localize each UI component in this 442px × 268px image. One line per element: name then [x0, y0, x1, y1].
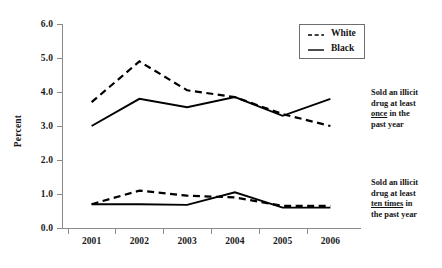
legend-entry-white: White — [304, 28, 362, 42]
series-line — [92, 61, 331, 126]
legend-entry-black: Black — [304, 43, 362, 57]
legend-label-white: White — [331, 28, 356, 38]
y-tick-label: 4.0 — [25, 87, 53, 97]
annotation-emphasis: ten times — [371, 199, 403, 208]
y-tick-label: 0.0 — [25, 223, 53, 233]
y-axis-title: Percent — [13, 115, 23, 147]
annotation-line: drug at least — [371, 99, 433, 110]
x-tick-mark — [163, 229, 164, 234]
x-tick-mark — [259, 229, 260, 234]
annotation-emphasis: once — [371, 109, 387, 118]
y-tick-label: 2.0 — [25, 155, 53, 165]
x-tick-label: 2004 — [213, 236, 257, 246]
chart-figure: Percent 0.01.02.03.04.05.06.0 2001200220… — [0, 0, 442, 268]
x-tick-label: 2006 — [308, 236, 352, 246]
x-tick-mark — [115, 229, 116, 234]
y-tick-mark — [57, 228, 62, 229]
x-tick-label: 2005 — [261, 236, 305, 246]
annotation-line: the past year — [371, 210, 433, 221]
annotation-sold-ten-times: Sold an illicitdrug at leastten times in… — [371, 178, 433, 220]
y-tick-label: 3.0 — [25, 121, 53, 131]
annotation-line: ten times in — [371, 199, 433, 210]
x-tick-label: 2003 — [165, 236, 209, 246]
legend: White Black — [299, 24, 365, 59]
x-tick-mark — [211, 229, 212, 234]
series-line — [92, 97, 331, 126]
y-tick-label: 5.0 — [25, 53, 53, 63]
y-tick-label: 1.0 — [25, 189, 53, 199]
legend-swatch-dashed — [304, 34, 328, 36]
x-tick-mark — [307, 229, 308, 234]
annotation-sold-once: Sold an illicitdrug at leastonce in thep… — [371, 88, 433, 130]
y-tick-label: 6.0 — [25, 19, 53, 29]
annotation-line: past year — [371, 120, 433, 131]
x-tick-label: 2001 — [70, 236, 114, 246]
legend-label-black: Black — [331, 43, 354, 53]
x-tick-label: 2002 — [117, 236, 161, 246]
annotation-line: once in the — [371, 109, 433, 120]
annotation-line: drug at least — [371, 189, 433, 200]
annotation-line: Sold an illicit — [371, 88, 433, 99]
annotation-line: Sold an illicit — [371, 178, 433, 189]
legend-swatch-solid — [304, 49, 328, 51]
x-tick-mark — [68, 229, 69, 234]
